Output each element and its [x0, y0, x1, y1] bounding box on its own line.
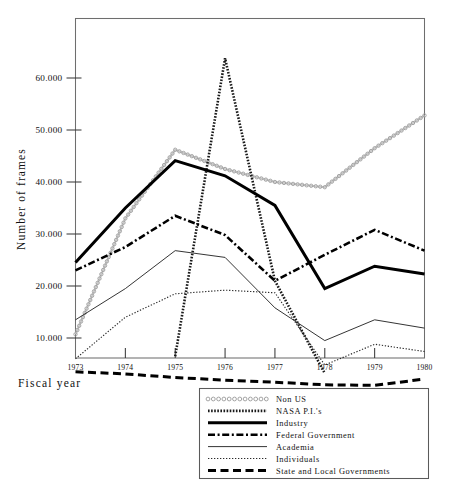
- series-line: [76, 290, 425, 365]
- legend-label: Industry: [276, 419, 309, 428]
- legend-label: Individuals: [276, 455, 320, 464]
- legend-label: Federal Government: [276, 431, 355, 440]
- x-tick-label: 1974: [117, 363, 133, 372]
- y-tick-label: 60.000: [35, 73, 62, 83]
- x-axis-title: Fiscal year: [18, 377, 81, 390]
- series-line: [76, 115, 425, 334]
- legend-label: State and Local Governments: [276, 467, 390, 476]
- y-axis-ticks: [67, 78, 82, 338]
- x-tick-label: 1977: [267, 363, 283, 372]
- series-line: [76, 161, 425, 289]
- y-tick-label: 40.000: [35, 177, 62, 187]
- x-axis-tick-labels: 19731974197519761977197819791980: [68, 363, 433, 372]
- legend-label: Non US: [276, 395, 307, 404]
- y-axis-title: Number of frames: [15, 148, 27, 250]
- x-axis-ticks: [125, 348, 374, 358]
- series-line: [76, 251, 425, 341]
- legend-label: NASA P.I.'s: [276, 407, 322, 416]
- legend-label: Academia: [276, 443, 314, 452]
- x-tick-label: 1980: [417, 363, 433, 372]
- line-chart-figure: 60.00050.00040.00030.00020.00010.000 197…: [0, 0, 451, 493]
- plot-frame: [76, 19, 425, 359]
- series-line: [76, 216, 425, 281]
- data-series-layer: [74, 58, 426, 385]
- y-tick-label: 10.000: [35, 333, 62, 343]
- y-tick-label: 30.000: [35, 229, 62, 239]
- y-axis-tick-labels: 60.00050.00040.00030.00020.00010.000: [35, 73, 62, 343]
- series-line: [76, 372, 425, 386]
- x-tick-label: 1976: [217, 363, 233, 372]
- x-tick-label: 1975: [167, 363, 183, 372]
- y-tick-label: 20.000: [35, 281, 62, 291]
- x-tick-label: 1979: [367, 363, 383, 372]
- chart-canvas: 60.00050.00040.00030.00020.00010.000 197…: [0, 0, 451, 493]
- y-tick-label: 50.000: [35, 125, 62, 135]
